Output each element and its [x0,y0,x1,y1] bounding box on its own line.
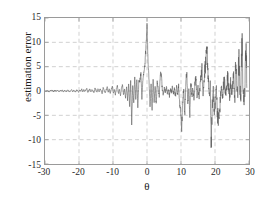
x-tick-label: -10 [106,167,119,178]
x-tick-label: -20 [72,167,85,178]
x-tick-label: 30 [245,167,255,178]
y-tick-label: 5 [36,61,41,71]
x-axis-tick-labels: -30 -20 -10 0 10 20 30 [44,167,250,180]
figure-estimation-error: 15 10 5 0 -5 -10 -15 -30 -20 -10 0 10 20… [0,0,264,201]
x-tick-label: -30 [38,167,51,178]
y-tick-label: -5 [33,111,41,121]
x-tick-label: 20 [211,167,221,178]
x-tick-label: 10 [177,167,187,178]
x-tick-label: 0 [145,167,150,178]
y-axis-title: estimation error [21,0,33,137]
x-axis-title: θ [44,180,250,192]
plot-area [44,17,250,165]
y-tick-label: 0 [36,86,41,96]
axis-ticks [45,18,249,164]
